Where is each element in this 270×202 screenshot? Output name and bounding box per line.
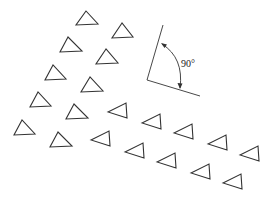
triangle-up-icon <box>60 37 82 52</box>
triangle-left-icon <box>125 143 144 158</box>
triangle-up-icon <box>76 11 98 25</box>
angle-ray-2 <box>147 80 200 96</box>
triangle-up-icon <box>112 23 133 38</box>
triangle-left-icon <box>191 164 210 179</box>
triangle-up-icon <box>45 65 66 80</box>
upward-triangles-group <box>14 11 133 147</box>
triangle-up-icon <box>14 120 35 135</box>
triangle-field-diagram <box>0 0 270 202</box>
angle-arc <box>162 44 181 88</box>
left-triangles-group <box>91 103 259 189</box>
angle-label: 90° <box>181 58 195 69</box>
triangle-left-icon <box>108 103 127 118</box>
triangle-left-icon <box>174 124 193 139</box>
triangle-up-icon <box>66 104 88 119</box>
triangle-left-icon <box>142 114 161 129</box>
triangle-left-icon <box>157 153 176 168</box>
triangle-up-icon <box>50 132 72 147</box>
triangle-left-icon <box>91 131 110 146</box>
triangle-left-icon <box>208 135 227 150</box>
triangle-left-icon <box>223 174 242 189</box>
angle-ray-1 <box>147 25 163 80</box>
triangle-up-icon <box>96 49 118 64</box>
triangle-left-icon <box>240 146 259 161</box>
triangle-up-icon <box>81 77 103 92</box>
arrowhead-end-icon <box>178 83 183 89</box>
triangle-up-icon <box>30 92 51 107</box>
